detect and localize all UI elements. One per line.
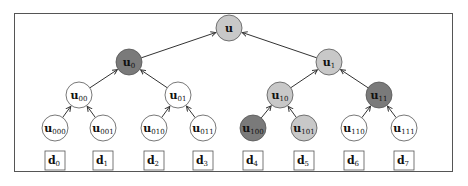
edge-arrow	[288, 106, 296, 117]
edge-arrow	[141, 33, 215, 58]
data-box-d5: d5	[294, 151, 314, 170]
data-box-d6: d6	[344, 151, 364, 170]
edge-arrow	[90, 70, 117, 88]
tree-node-u: u	[216, 15, 242, 41]
tree-node-u10: u10	[267, 82, 293, 108]
edge-arrow	[162, 106, 170, 117]
edge-arrow	[242, 33, 316, 58]
edge-arrow	[362, 106, 371, 117]
data-box-d4: d4	[243, 151, 263, 170]
data-box-d7: d7	[394, 151, 414, 170]
edge-arrow	[261, 106, 271, 118]
tree-nodes: uu0u1u00u01u10u11u000u001u010u011u100u10…	[42, 15, 417, 141]
tree-node-u110: u110	[341, 115, 367, 141]
edge-arrow	[186, 106, 195, 117]
tree-node-u1: u1	[316, 49, 342, 75]
edge-arrow	[291, 70, 318, 88]
tree-node-u0: u0	[116, 49, 142, 75]
tree-node-u101: u101	[291, 115, 317, 141]
data-box-d3: d3	[193, 151, 213, 170]
data-box-d0: d0	[45, 151, 65, 170]
tree-node-u000: u000	[42, 115, 68, 141]
tree-node-u010: u010	[141, 115, 167, 141]
tree-node-u011: u011	[190, 115, 216, 141]
edge-arrow	[63, 106, 71, 117]
tree-edges	[63, 33, 397, 118]
tree-node-u111: u111	[391, 115, 417, 141]
tree-node-u01: u01	[165, 82, 191, 108]
tree-node-u001: u001	[90, 115, 116, 141]
data-box-d2: d2	[144, 151, 164, 170]
tree-node-u100: u100	[240, 115, 266, 141]
edge-arrow	[341, 70, 368, 88]
tree-node-u00: u00	[66, 82, 92, 108]
node-label: u	[225, 22, 233, 35]
tree-node-u11: u11	[366, 82, 392, 108]
edge-arrow	[87, 106, 95, 117]
edge-arrow	[387, 106, 396, 117]
data-boxes: d0d1d2d3d4d5d6d7	[45, 151, 414, 170]
binary-tree-diagram: uu0u1u00u01u10u11u000u001u010u011u100u10…	[0, 0, 468, 186]
edge-arrow	[141, 70, 168, 88]
data-box-d1: d1	[93, 151, 113, 170]
